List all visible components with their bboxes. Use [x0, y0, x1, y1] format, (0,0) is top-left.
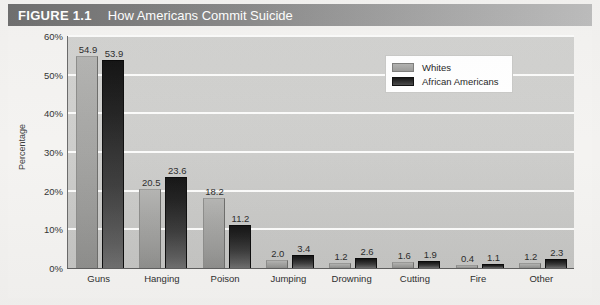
- y-axis-tick-label: 40%: [11, 108, 63, 119]
- figure-number: FIGURE 1.1: [18, 8, 92, 23]
- y-axis-tick-label: 0%: [11, 263, 63, 274]
- x-axis-label-other: Other: [503, 273, 579, 284]
- chart-frame: Percentage 0%10%20%30%40%50%60% 54.953.9…: [8, 30, 592, 298]
- bar-cutting-african-americans: 1.9: [418, 261, 440, 268]
- bar-value-label: 11.2: [224, 213, 258, 224]
- bar-value-label: 23.6: [160, 165, 194, 176]
- bar-value-label: 18.2: [198, 186, 232, 197]
- bar-value-label: 53.9: [97, 48, 131, 59]
- y-axis-tick-label: 50%: [11, 69, 63, 80]
- bar-group: 54.953.9: [68, 36, 131, 268]
- figure-container: FIGURE 1.1 How Americans Commit Suicide …: [0, 0, 600, 305]
- bar-value-label: 2.6: [350, 246, 384, 257]
- bar-other-african-americans: 2.3: [545, 259, 567, 268]
- bar-group: 2.03.4: [258, 36, 321, 268]
- y-axis-tick-label: 60%: [11, 31, 63, 42]
- african-americans-swatch-icon: [392, 77, 414, 86]
- legend-label-african-americans: African Americans: [422, 76, 499, 87]
- bar-guns-african-americans: 53.9: [102, 60, 124, 268]
- y-axis-tick-label: 30%: [11, 147, 63, 158]
- legend-item-african-americans: African Americans: [392, 74, 506, 88]
- figure-title-bar: FIGURE 1.1 How Americans Commit Suicide: [8, 4, 592, 26]
- y-axis-tick-label: 10%: [11, 224, 63, 235]
- bar-drowning-african-americans: 2.6: [355, 258, 377, 268]
- bar-poison-african-americans: 11.2: [229, 225, 251, 268]
- whites-swatch-icon: [392, 63, 414, 72]
- bar-guns-whites: 54.9: [76, 56, 98, 268]
- legend-label-whites: Whites: [422, 62, 451, 73]
- bar-jumping-african-americans: 3.4: [292, 255, 314, 268]
- chart-legend: Whites African Americans: [385, 55, 513, 93]
- bar-hanging-whites: 20.5: [139, 189, 161, 268]
- bar-group: 18.211.2: [195, 36, 258, 268]
- bar-value-label: 1.9: [413, 249, 447, 260]
- bar-group: 1.22.6: [321, 36, 384, 268]
- legend-item-whites: Whites: [392, 60, 506, 74]
- bar-hanging-african-americans: 23.6: [165, 177, 187, 268]
- bar-value-label: 20.5: [134, 177, 168, 188]
- bar-group: 20.523.6: [131, 36, 194, 268]
- x-axis-line: [67, 268, 574, 269]
- bar-value-label: 1.1: [477, 252, 511, 263]
- bar-value-label: 3.4: [287, 243, 321, 254]
- figure-title: How Americans Commit Suicide: [108, 8, 293, 23]
- bar-poison-whites: 18.2: [203, 198, 225, 268]
- bar-value-label: 2.3: [540, 247, 574, 258]
- bar-jumping-whites: 2.0: [266, 260, 288, 268]
- bar-group: 1.22.3: [511, 36, 574, 268]
- y-axis-tick-label: 20%: [11, 185, 63, 196]
- y-axis-ticks: 0%10%20%30%40%50%60%: [8, 36, 63, 268]
